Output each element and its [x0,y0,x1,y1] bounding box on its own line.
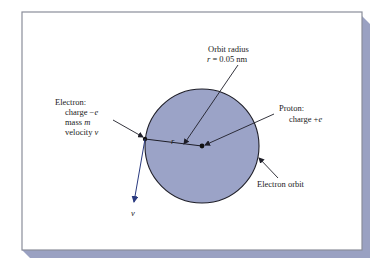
orbit-radius-label-line2: r = 0.05 nm [207,54,248,64]
orbit-radius-label-line1: Orbit radius [208,44,249,54]
electron-label-title: Electron: [55,97,86,107]
velocity-symbol: v [131,208,135,218]
electron-label-velocity: velocity v [65,127,99,137]
orbit-caption: Electron orbit [257,179,305,189]
proton-label-title: Proton: [279,103,304,113]
electron-label-charge: charge −e [65,107,98,117]
hydrogen-atom-diagram: r v Orbit radius r = 0.05 nm Electron: c… [0,0,388,272]
proton-dot [200,144,205,149]
proton-label-charge: charge +e [289,114,322,124]
electron-label-mass: mass m [65,117,90,127]
